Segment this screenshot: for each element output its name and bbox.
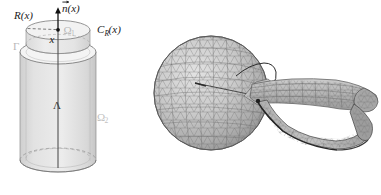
svg-text:(x): (x): [109, 23, 122, 36]
normal-arrow-head: [55, 7, 61, 13]
mesh-rendering-panel: [140, 0, 381, 195]
cylinder-schematic-panel: R(x) n(x) C R (x) x Ω 1 Ω 2 Γ Λ: [0, 0, 140, 195]
point-x-marker: [56, 28, 60, 32]
label-gamma: Γ: [13, 40, 19, 52]
label-omega-lower: Ω 2: [97, 111, 108, 126]
label-lambda: Λ: [53, 99, 61, 111]
figure-container: R(x) n(x) C R (x) x Ω 1 Ω 2 Γ Λ: [0, 0, 381, 195]
strut-root-node: [256, 99, 260, 103]
label-normal-vector: n(x): [62, 1, 80, 15]
label-cylinder-curve: C R (x): [97, 23, 121, 38]
svg-text:n(x): n(x): [62, 2, 80, 15]
svg-text:1: 1: [71, 29, 75, 38]
svg-text:2: 2: [104, 116, 108, 125]
cylinder-schematic-svg: R(x) n(x) C R (x) x Ω 1 Ω 2 Γ Λ: [0, 0, 140, 195]
label-point-x: x: [49, 33, 55, 45]
label-radius: R(x): [13, 9, 33, 22]
mesh-rendering-svg: [140, 0, 381, 195]
